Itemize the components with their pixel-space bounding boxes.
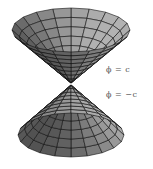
label-phi-equals-minus-c: ϕ = −c xyxy=(106,90,137,99)
label-phi-equals-c: ϕ = c xyxy=(106,65,130,74)
cone-face xyxy=(57,138,71,148)
cone-face xyxy=(71,17,87,27)
cone-face xyxy=(71,147,87,157)
double-cone-diagram xyxy=(0,0,153,169)
cone-face xyxy=(71,138,85,148)
cone-face xyxy=(55,147,71,157)
cone-face xyxy=(71,8,89,18)
cone-face xyxy=(53,8,71,18)
cone-face xyxy=(55,17,71,27)
